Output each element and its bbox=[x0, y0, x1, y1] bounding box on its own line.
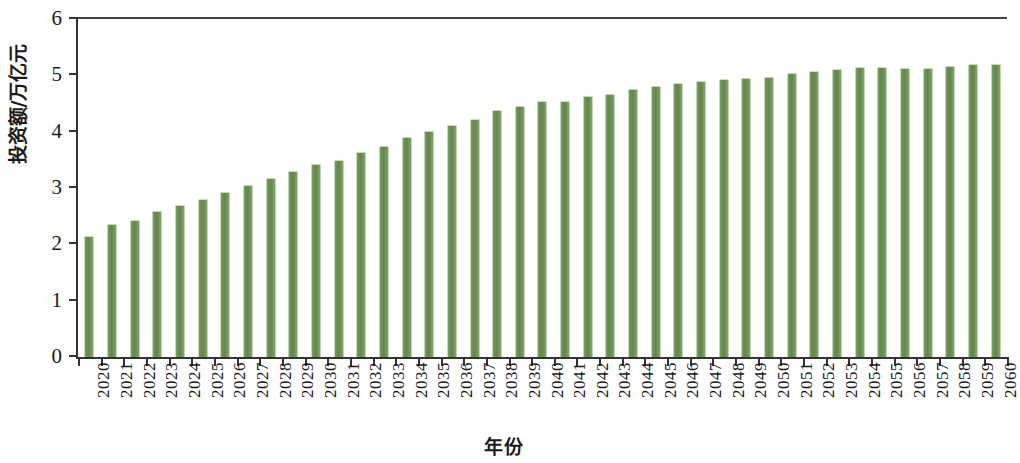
x-tick-label: 2060 bbox=[1002, 362, 1020, 426]
bar bbox=[470, 119, 479, 357]
x-tick-label: 2048 bbox=[730, 362, 748, 426]
x-tick-label: 2021 bbox=[118, 362, 136, 426]
bar bbox=[447, 125, 456, 357]
x-tick-label: 2046 bbox=[684, 362, 702, 426]
bar bbox=[130, 220, 139, 357]
x-tick-label: 2050 bbox=[775, 362, 793, 426]
x-tick-label: 2038 bbox=[503, 362, 521, 426]
bar-column bbox=[916, 19, 939, 357]
y-tick-5: 5 bbox=[69, 73, 78, 75]
bar-column bbox=[78, 19, 101, 357]
bar-column bbox=[758, 19, 781, 357]
x-tick-label: 2029 bbox=[299, 362, 317, 426]
bar bbox=[629, 89, 638, 357]
bar bbox=[107, 224, 116, 357]
x-tick-label: 2058 bbox=[956, 362, 974, 426]
bar-column bbox=[690, 19, 713, 357]
y-tick-2: 2 bbox=[69, 242, 78, 244]
x-tick-label: 2057 bbox=[934, 362, 952, 426]
x-tick-label: 2059 bbox=[979, 362, 997, 426]
bar bbox=[243, 185, 252, 357]
bar-column bbox=[667, 19, 690, 357]
bar bbox=[878, 67, 887, 357]
y-tick-label: 1 bbox=[52, 289, 63, 311]
x-tick-label: 2032 bbox=[367, 362, 385, 426]
bar-column bbox=[282, 19, 305, 357]
bar-column bbox=[418, 19, 441, 357]
bar bbox=[85, 236, 94, 357]
bar-column bbox=[463, 19, 486, 357]
bar bbox=[674, 83, 683, 357]
x-tick-label: 2039 bbox=[526, 362, 544, 426]
bar-column bbox=[169, 19, 192, 357]
bar-series bbox=[78, 19, 1007, 357]
bar-column bbox=[826, 19, 849, 357]
bar-column bbox=[214, 19, 237, 357]
x-axis-tick-labels: 2020202120222023202420252026202720282029… bbox=[76, 362, 1007, 426]
x-tick-label: 2033 bbox=[390, 362, 408, 426]
x-tick-label: 2028 bbox=[277, 362, 295, 426]
x-tick-label: 2024 bbox=[186, 362, 204, 426]
y-tick-label: 4 bbox=[52, 120, 63, 142]
bar bbox=[719, 79, 728, 357]
bar-column bbox=[780, 19, 803, 357]
x-tick-label: 2031 bbox=[345, 362, 363, 426]
bar-column bbox=[259, 19, 282, 357]
y-tick-label: 0 bbox=[52, 345, 63, 367]
x-tick-label: 2026 bbox=[231, 362, 249, 426]
y-tick-3: 3 bbox=[69, 186, 78, 188]
bar bbox=[493, 110, 502, 357]
x-tick-label: 2036 bbox=[458, 362, 476, 426]
bar-column bbox=[599, 19, 622, 357]
bar-column bbox=[146, 19, 169, 357]
bar-column bbox=[622, 19, 645, 357]
bar bbox=[901, 68, 910, 357]
x-tick-label: 2043 bbox=[616, 362, 634, 426]
x-tick-label: 2040 bbox=[549, 362, 567, 426]
x-tick-label: 2020 bbox=[95, 362, 113, 426]
x-tick-label: 2044 bbox=[639, 362, 657, 426]
x-tick-label: 2025 bbox=[209, 362, 227, 426]
bar bbox=[538, 101, 547, 357]
bar bbox=[583, 96, 592, 357]
x-tick-label: 2052 bbox=[820, 362, 838, 426]
bar-column bbox=[735, 19, 758, 357]
bar bbox=[855, 67, 864, 357]
bar bbox=[515, 106, 524, 357]
bar-column bbox=[531, 19, 554, 357]
y-tick-6: 6 bbox=[69, 17, 78, 19]
x-tick-label: 2030 bbox=[322, 362, 340, 426]
x-tick-label: 2053 bbox=[843, 362, 861, 426]
x-tick-label: 2022 bbox=[141, 362, 159, 426]
bar bbox=[651, 86, 660, 357]
x-tick-label: 2023 bbox=[163, 362, 181, 426]
bar bbox=[175, 205, 184, 357]
bar-column bbox=[894, 19, 917, 357]
x-axis-title: 年份 bbox=[0, 432, 1007, 459]
bar bbox=[334, 160, 343, 357]
bar bbox=[357, 152, 366, 357]
x-tick-label: 2034 bbox=[413, 362, 431, 426]
bar-column bbox=[848, 19, 871, 357]
bar bbox=[923, 68, 932, 357]
bar-column bbox=[305, 19, 328, 357]
bar bbox=[311, 164, 320, 357]
x-tick-label: 2045 bbox=[662, 362, 680, 426]
bar bbox=[742, 78, 751, 357]
bar-column bbox=[373, 19, 396, 357]
bar-column bbox=[984, 19, 1007, 357]
bar bbox=[198, 199, 207, 357]
bar-column bbox=[395, 19, 418, 357]
x-tick-label: 2056 bbox=[911, 362, 929, 426]
bar bbox=[289, 171, 298, 357]
bar-column bbox=[712, 19, 735, 357]
bar bbox=[221, 192, 230, 357]
y-tick-0: 0 bbox=[69, 355, 78, 357]
bar bbox=[991, 64, 1000, 357]
bar-column bbox=[644, 19, 667, 357]
bar-column bbox=[576, 19, 599, 357]
y-tick-label: 3 bbox=[52, 176, 63, 198]
bar bbox=[402, 137, 411, 357]
bar bbox=[153, 211, 162, 357]
